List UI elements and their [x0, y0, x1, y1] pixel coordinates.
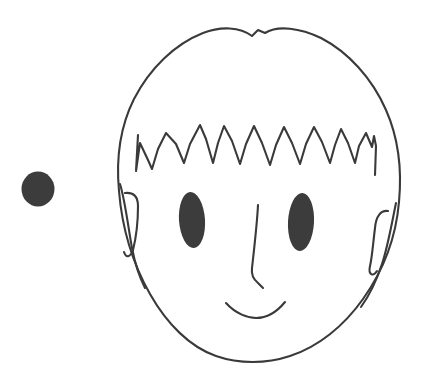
canvas-background — [0, 0, 428, 387]
face-drawing — [0, 0, 428, 387]
drawing-canvas — [0, 0, 428, 387]
filled-dot — [22, 172, 55, 207]
